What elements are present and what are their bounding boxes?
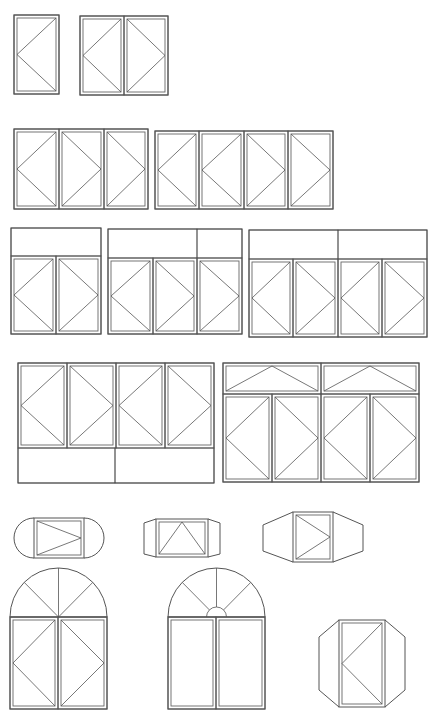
octagonal-casement — [319, 620, 405, 707]
quad-with-bottom-panels — [18, 363, 214, 483]
sash-frame — [56, 256, 101, 334]
outer-frame — [108, 229, 242, 334]
opening-indicator — [324, 366, 416, 391]
opening-indicator — [324, 397, 367, 479]
opening-indicator — [247, 134, 285, 206]
outer-frame — [14, 15, 59, 94]
sash-frame — [34, 518, 84, 558]
opening-indicator — [226, 397, 269, 479]
opening-indicator — [13, 620, 55, 706]
sash-right-hinged — [124, 16, 168, 95]
opening-indicator — [200, 261, 239, 331]
sash-right-hinged — [382, 259, 427, 337]
opening-indicator — [341, 262, 379, 334]
bottom-panel — [18, 448, 115, 483]
rounded-bay — [14, 518, 104, 558]
sash-frame — [165, 363, 214, 448]
sash-top-hinged — [223, 363, 321, 394]
opening-indicator — [156, 261, 194, 331]
side-panel-left — [263, 512, 293, 562]
sash-glass — [156, 261, 194, 331]
sash-top-hinged — [321, 363, 419, 394]
sash-frame — [124, 16, 168, 95]
arched-fixed-with-fan — [168, 568, 265, 709]
sash-glass — [202, 134, 241, 206]
side-panel-right — [208, 519, 220, 557]
sash-glass — [159, 522, 205, 554]
arch-spoke — [224, 582, 251, 610]
sash-left-hinged — [108, 258, 153, 334]
sash-frame — [80, 16, 124, 95]
sash-left-hinged — [10, 617, 58, 709]
opening-indicator — [202, 134, 241, 206]
sash-glass — [13, 620, 55, 706]
sash-frame — [293, 259, 338, 337]
transom-panel — [249, 230, 338, 259]
sash-glass — [200, 261, 239, 331]
sash-glass — [119, 366, 162, 445]
sash-left-hinged — [80, 16, 124, 95]
sash-frame — [67, 363, 116, 448]
sash-frame — [156, 519, 208, 557]
double-with-transom — [11, 228, 101, 334]
sash-glass — [324, 397, 367, 479]
sash-left-hinged — [338, 259, 382, 337]
fixed-pane — [168, 617, 216, 709]
row-3-transom-casements — [11, 228, 427, 337]
sash-frame — [339, 620, 385, 707]
sash-glass — [168, 366, 211, 445]
bottom-panel — [115, 448, 214, 483]
sash-glass — [275, 397, 318, 479]
fixed-pane — [216, 617, 265, 709]
side-panel-right — [385, 620, 405, 707]
sash-frame — [321, 363, 419, 394]
sash-glass — [252, 262, 290, 334]
sash-top-hinged — [156, 519, 208, 557]
opening-indicator — [127, 19, 165, 92]
opening-indicator — [62, 132, 101, 206]
window-types-diagram — [0, 0, 437, 718]
row-5-bay-windows — [14, 512, 363, 562]
sash-right-hinged — [67, 363, 116, 448]
sash-right-hinged — [293, 512, 333, 562]
row-6-arched-and-octagon — [10, 568, 405, 709]
opening-indicator — [21, 366, 64, 445]
sash-frame — [104, 129, 148, 209]
sash-frame — [199, 131, 244, 209]
sash-left-hinged — [223, 394, 272, 482]
sash-right-hinged — [59, 129, 104, 209]
fixed-glass — [171, 620, 213, 706]
opening-indicator — [107, 132, 145, 206]
quad-with-top-hoppers — [223, 363, 419, 482]
opening-indicator — [61, 620, 104, 706]
sash-frame — [108, 258, 153, 334]
opening-indicator — [168, 366, 211, 445]
sash-left-hinged — [11, 256, 56, 334]
quad-with-transom — [249, 230, 427, 337]
sash-frame — [382, 259, 427, 337]
arch-spoke — [182, 582, 209, 610]
side-panel-right — [333, 512, 363, 562]
arch-hub — [207, 607, 227, 617]
sash-frame — [197, 258, 242, 334]
sash-right-hinged — [293, 259, 338, 337]
sash-left-hinged — [321, 394, 370, 482]
sash-frame — [272, 394, 321, 482]
sash-right-hinged — [153, 258, 197, 334]
sash-glass — [226, 366, 318, 391]
sash-left-hinged — [249, 259, 293, 337]
wide-angled-bay — [263, 512, 363, 562]
sash-glass — [111, 261, 150, 331]
sash-right-hinged — [165, 363, 214, 448]
sash-frame — [59, 129, 104, 209]
sash-glass — [226, 397, 269, 479]
sash-frame — [288, 131, 333, 209]
transom-panel — [108, 229, 197, 258]
opening-indicator — [373, 397, 416, 479]
sash-right-hinged — [244, 131, 288, 209]
arch-spoke — [59, 582, 93, 617]
sash-glass — [70, 366, 113, 445]
side-panel-left — [319, 620, 339, 707]
sash-frame — [370, 394, 419, 482]
sash-glass — [14, 259, 53, 331]
